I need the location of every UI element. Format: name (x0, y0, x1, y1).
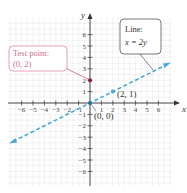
origin-label: (0, 0) (94, 111, 114, 121)
x-tick-label: 3 (122, 106, 126, 114)
graph-figure: −6−5−4−3−2−1123456−6−5−4−3−2−1123456 x y… (0, 0, 187, 193)
x-tick-label: −6 (18, 106, 26, 114)
y-tick-label: −6 (79, 168, 87, 176)
line-callout-equation: x = 2y (124, 37, 147, 47)
x-axis-label: x (181, 104, 186, 114)
x-tick-label: −5 (29, 106, 37, 114)
y-tick-label: −2 (79, 122, 87, 130)
line-callout-title: Line: (125, 24, 143, 34)
x-tick-label: 6 (157, 106, 161, 114)
point-2-1-marker (111, 90, 115, 94)
x-axis (8, 101, 180, 106)
x-tick-label: 4 (134, 106, 138, 114)
x-tick-label: −4 (41, 106, 49, 114)
test-point-callout-title: Test point: (13, 48, 49, 58)
origin-leader-line (91, 104, 96, 111)
y-tick-label: −3 (79, 134, 87, 142)
y-tick-label: −1 (79, 111, 87, 119)
point-2-1-label: (2, 1) (117, 89, 137, 99)
y-tick-label: 6 (83, 31, 87, 39)
y-tick-label: 5 (83, 43, 87, 51)
x-tick-label: −2 (63, 106, 71, 114)
x-tick-label: 5 (145, 106, 149, 114)
y-tick-label: −5 (79, 157, 87, 165)
y-axis-label: y (80, 10, 85, 20)
y-tick-label: −4 (79, 145, 87, 153)
y-tick-label: 3 (83, 65, 87, 73)
test-point-marker (88, 78, 92, 82)
test-point-callout-coords: (0, 2) (13, 59, 32, 69)
y-tick-label: 1 (83, 88, 87, 96)
x-tick-label: −3 (52, 106, 60, 114)
line-callout: Line: x = 2y (120, 19, 161, 70)
y-tick-label: 4 (83, 54, 87, 62)
